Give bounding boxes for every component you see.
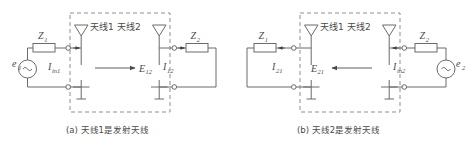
panel-a-current-in1-subscript: in1 — [52, 67, 60, 74]
panel-b-source-subscript: 2 — [462, 64, 466, 71]
panel-b-caption: (b) 天线2是发射天线 — [297, 125, 380, 135]
panel-a-impedance-z2-body — [186, 44, 208, 53]
panel-a-impedance-z1-subscript: 1 — [44, 36, 47, 43]
panel-b-impedance-z1-subscript: 1 — [265, 36, 268, 43]
panel-a-current-12-subscript: 12 — [167, 67, 174, 74]
panel-a-terminal-bottom-right — [172, 85, 177, 90]
panel-a-impedance-z2-subscript: 2 — [197, 36, 201, 43]
panel-a-impedance-z1-label: Z — [38, 30, 44, 41]
panel-b-impedance-z2-body — [415, 44, 437, 53]
panel-b-load-return-wire — [247, 48, 292, 87]
panel-b-impedance-z1-body — [254, 44, 276, 53]
panel-a-source-label: e — [12, 58, 17, 69]
panel-b: Z 1 I 21 天线1 E 21 天线 — [247, 13, 466, 135]
panel-b-terminal-top-right — [402, 46, 407, 51]
panel-b-impedance-z1-label: Z — [259, 30, 265, 41]
panel-b-antenna1-label: 天线1 — [320, 21, 344, 32]
panel-b-antenna2-label: 天线2 — [347, 21, 371, 32]
panel-a-impedance-z2-label: Z — [191, 30, 197, 41]
panel-a-antenna2-label: 天线2 — [117, 21, 141, 32]
panel-b-field-e21-label: E — [310, 63, 317, 74]
panel-b-source-top-wire — [437, 48, 446, 60]
panel-a-source-subscript: 1 — [18, 64, 21, 71]
panel-b-current-in2-subscript: in2 — [397, 67, 406, 74]
panel-a-caption: (a) 天线1是发射天线 — [66, 125, 149, 135]
panel-b-terminal-bottom-left — [292, 85, 297, 90]
panel-b-antenna1-icon — [305, 25, 319, 36]
panel-b-ground1-icon — [303, 80, 320, 99]
panel-a-ground1-icon — [73, 80, 90, 99]
panel-b-terminal-top-left — [292, 46, 297, 51]
panel-b-terminal-bottom-right — [402, 85, 407, 90]
panel-a-antenna1-icon — [75, 25, 89, 36]
panel-a-antenna1-label: 天线1 — [90, 21, 114, 32]
panel-b-antenna2-icon — [383, 25, 397, 36]
panel-a-terminal-bottom-left — [66, 85, 71, 90]
panel-b-source-bottom-wire — [407, 78, 446, 87]
panel-b-current-21-subscript: 21 — [276, 67, 283, 74]
panel-a-field-e12-subscript: 12 — [146, 68, 153, 75]
panel-b-impedance-z2-label: Z — [420, 30, 426, 41]
panel-a-impedance-z1-body — [33, 44, 55, 53]
figure-canvas: e 1 Z 1 I in1 天线1 — [0, 0, 466, 143]
panel-b-impedance-z2-subscript: 2 — [426, 36, 430, 43]
panel-b-ground2-icon — [381, 80, 398, 99]
panel-a: e 1 Z 1 I in1 天线1 — [12, 13, 216, 135]
panel-b-source-label: e — [456, 58, 461, 69]
panel-a-source-top-wire — [28, 48, 34, 60]
panel-b-field-e21-subscript: 21 — [318, 68, 325, 75]
panel-a-source-bottom-wire — [28, 78, 67, 87]
antenna-reciprocity-figure: e 1 Z 1 I in1 天线1 — [0, 0, 466, 143]
panel-a-terminal-top-left — [66, 46, 71, 51]
panel-a-field-e12-label: E — [138, 63, 145, 74]
panel-a-ground2-icon — [151, 80, 168, 99]
panel-a-antenna2-icon — [153, 25, 167, 36]
panel-a-terminal-top-right — [172, 46, 177, 51]
panel-a-load-return-wire — [177, 48, 216, 87]
